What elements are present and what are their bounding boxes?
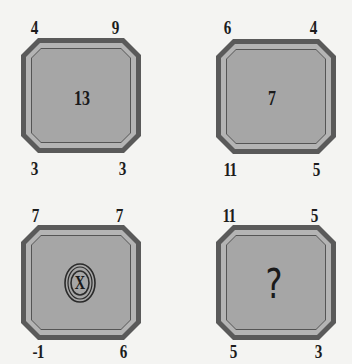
corner-top-left: 11: [223, 206, 236, 225]
corner-bottom-right: 3: [119, 159, 126, 178]
center-value: 7: [256, 88, 288, 108]
corner-top-left: 4: [31, 18, 38, 37]
corner-top-left: 6: [224, 18, 231, 37]
question-mark-icon: ?: [258, 264, 290, 304]
corner-top-right: 7: [116, 206, 123, 225]
corner-bottom-left: 5: [230, 342, 237, 361]
corner-bottom-right: 3: [315, 342, 322, 361]
corner-bottom-left: 11: [224, 160, 237, 179]
puzzle-card-bottom-right: 11 5 5 3 ?: [176, 182, 352, 364]
puzzle-card-top-left: 4 9 3 3 13: [0, 0, 176, 182]
corner-top-right: 9: [112, 18, 119, 37]
corner-top-right: 5: [311, 206, 318, 225]
corner-bottom-right: 5: [313, 160, 320, 179]
puzzle-card-bottom-left: 7 7 -1 6 X: [0, 182, 176, 364]
corner-bottom-right: 6: [120, 342, 127, 361]
corner-bottom-left: -1: [32, 342, 43, 361]
corner-top-left: 7: [32, 206, 39, 225]
number-puzzle: 4 9 3 3 13 6 4 11 5 7 7 7 -1 6: [0, 0, 352, 364]
center-unknown-x: X: [64, 274, 96, 292]
puzzle-card-top-right: 6 4 11 5 7: [176, 0, 352, 182]
corner-bottom-left: 3: [31, 159, 38, 178]
center-value: 13: [66, 88, 98, 108]
corner-top-right: 4: [310, 18, 317, 37]
